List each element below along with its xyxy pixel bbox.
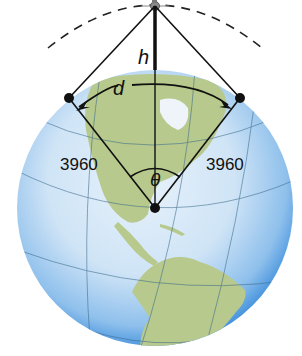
label-h: h: [138, 46, 149, 68]
label-d: d: [113, 77, 125, 99]
point-left: [64, 93, 74, 103]
point-right: [235, 93, 245, 103]
satellite-earth-diagram: h d 3960 3960 θ: [0, 0, 302, 356]
point-center: [150, 203, 160, 213]
label-radius-right: 3960: [206, 155, 244, 174]
label-radius-left: 3960: [60, 155, 98, 174]
label-theta: θ: [150, 169, 161, 190]
